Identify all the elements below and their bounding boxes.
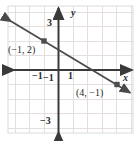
x-tick-label-neg1: −1: [32, 71, 43, 81]
y-tick-label-neg3: −3: [40, 116, 51, 126]
point-label-b: (4, −1): [76, 88, 103, 98]
data-point-b: [114, 82, 119, 87]
y-tick-label-3: 3: [47, 18, 52, 28]
y-axis-label: y: [71, 8, 75, 18]
x-tick-label-1: 1: [68, 71, 73, 81]
y-tick-label-neg1: −1: [43, 73, 54, 83]
graph-figure: y x 3 −1 −3 −1 1 (−1, 2) (4, −1): [0, 0, 140, 141]
point-label-a: (−1, 2): [8, 45, 35, 55]
data-point-a: [41, 38, 46, 43]
x-axis-label: x: [123, 73, 128, 83]
